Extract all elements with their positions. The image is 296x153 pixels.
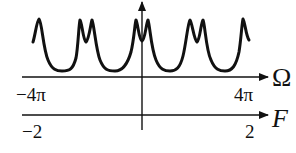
spectrum-curve	[33, 19, 249, 71]
omega-min-tick: −4π	[16, 85, 46, 104]
omega-axis-label: Ω	[272, 65, 291, 91]
f-max-tick: 2	[245, 122, 255, 141]
spectrum-figure: Ω F −4π 4π −2 2	[0, 0, 296, 153]
f-min-tick: −2	[22, 122, 42, 141]
f-axis-label: F	[272, 106, 288, 132]
omega-max-tick: 4π	[234, 85, 253, 104]
